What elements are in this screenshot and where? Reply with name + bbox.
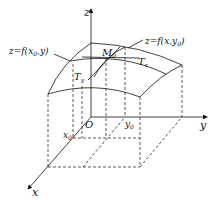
surface-left-edge (48, 43, 91, 94)
surface-right-edge (140, 65, 182, 97)
x-axis (28, 117, 91, 189)
y-label: y (199, 119, 207, 132)
x0-label: x0 (63, 130, 72, 141)
partial-derivative-diagram: z y x O x0 y0 M0 Tx Ty z=f(x0,y) z=f(x,y… (0, 0, 215, 204)
curve-x0 (70, 58, 166, 74)
leader-right (128, 40, 143, 48)
curve-right-label: z=f(x,y0) (144, 36, 185, 47)
ty-label: Ty (74, 71, 85, 84)
origin-label: O (85, 119, 93, 130)
diagram-svg: z y x O x0 y0 M0 Tx Ty z=f(x0,y) z=f(x,y… (0, 0, 215, 204)
dash-base-right (140, 117, 182, 167)
m0-label: M0 (101, 47, 116, 59)
leader-left (54, 54, 70, 61)
y0-label: y0 (124, 119, 134, 130)
curve-left-label: z=f(x0,y) (8, 46, 49, 57)
surface-front-edge (48, 88, 140, 97)
tx-label: Tx (138, 56, 149, 68)
z-label: z (83, 6, 90, 19)
x-label: x (32, 186, 39, 199)
